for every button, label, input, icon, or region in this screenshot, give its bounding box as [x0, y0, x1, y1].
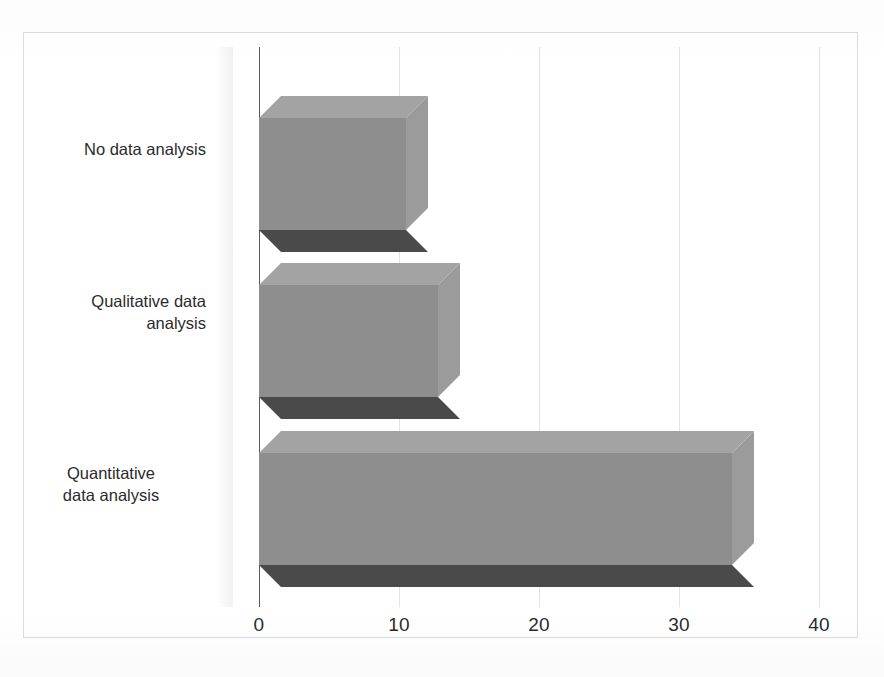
bar-top-face — [259, 96, 428, 118]
bar-1 — [259, 96, 428, 230]
bar-base-face — [259, 565, 754, 587]
category-label-line: data analysis — [16, 484, 206, 506]
bar-side-face — [406, 96, 428, 230]
bar-front-face — [259, 285, 438, 397]
bar-base-face — [259, 230, 428, 252]
x-tick-label-10: 10 — [369, 614, 429, 636]
bar-side-face — [732, 431, 754, 565]
bar-top-face — [259, 263, 460, 285]
x-tick-label-20: 20 — [509, 614, 569, 636]
gridline-40 — [819, 47, 820, 607]
category-label-line: analysis — [16, 312, 206, 334]
category-label-line: No data analysis — [16, 138, 206, 160]
plot-area: 010203040No data analysisQualitative dat… — [0, 0, 884, 677]
bar-base-face — [259, 397, 460, 419]
bar-top-face — [259, 431, 754, 453]
x-tick-label-30: 30 — [649, 614, 709, 636]
category-label-3: Quantitativedata analysis — [16, 462, 206, 506]
bar-front-face — [259, 118, 406, 230]
bar-front-face — [259, 453, 732, 565]
bar-2 — [259, 263, 460, 397]
category-label-1: No data analysis — [16, 138, 206, 160]
x-tick-label-40: 40 — [789, 614, 849, 636]
category-label-line: Quantitative — [16, 462, 206, 484]
category-label-2: Qualitative dataanalysis — [16, 290, 206, 334]
bar-3 — [259, 431, 754, 565]
chart-canvas: 010203040No data analysisQualitative dat… — [0, 0, 884, 677]
bar-side-face — [438, 263, 460, 397]
category-label-line: Qualitative data — [16, 290, 206, 312]
x-tick-label-0: 0 — [229, 614, 289, 636]
